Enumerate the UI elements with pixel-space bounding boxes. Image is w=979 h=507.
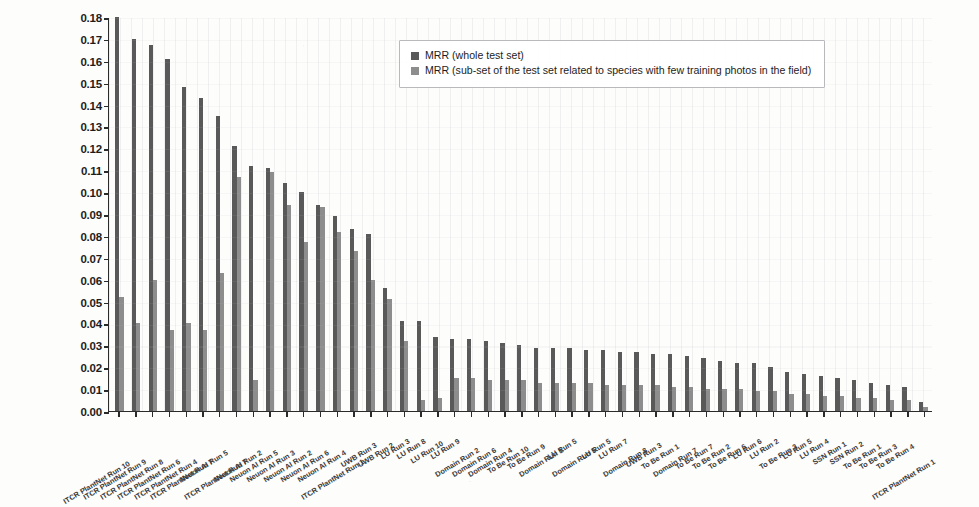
bar-group[interactable] (379, 18, 396, 411)
x-axis-tick-mark (706, 412, 707, 417)
bar[interactable] (337, 232, 341, 411)
bar[interactable] (249, 166, 253, 411)
bar[interactable] (907, 400, 911, 411)
x-label-slot: ITCR PlantNet Run 1 (916, 418, 933, 504)
bar[interactable] (237, 177, 241, 411)
bar-group[interactable] (848, 18, 865, 411)
bar[interactable] (253, 380, 257, 411)
legend-swatch-icon (411, 52, 419, 60)
bar[interactable] (270, 172, 274, 411)
bar[interactable] (538, 383, 542, 411)
bar[interactable] (421, 400, 425, 411)
bar[interactable] (387, 299, 391, 411)
legend-item[interactable]: MRR (sub-set of the test set related to … (411, 63, 811, 78)
bar[interactable] (220, 273, 224, 411)
bar[interactable] (438, 398, 442, 411)
bar-group[interactable] (228, 18, 245, 411)
bar[interactable] (186, 323, 190, 411)
bar[interactable] (840, 396, 844, 411)
bar[interactable] (572, 383, 576, 411)
bar[interactable] (722, 389, 726, 411)
bar-group[interactable] (346, 18, 363, 411)
bar[interactable] (354, 251, 358, 411)
y-axis-tick-label: 0.02 (80, 362, 109, 374)
bar[interactable] (622, 385, 626, 411)
bar[interactable] (153, 280, 157, 411)
x-label-slot: Domain Run 5 (580, 418, 597, 504)
x-axis-tick-mark (907, 412, 908, 417)
bar[interactable] (488, 380, 492, 411)
x-axis-tick-mark (420, 412, 421, 417)
bar[interactable] (404, 341, 408, 411)
bar-group[interactable] (295, 18, 312, 411)
bar-group[interactable] (865, 18, 882, 411)
bar[interactable] (873, 398, 877, 411)
bar-group[interactable] (178, 18, 195, 411)
bar-group[interactable] (882, 18, 899, 411)
x-axis-tick-mark (437, 412, 438, 417)
x-label-slot: LU Run 5 (597, 418, 614, 504)
bar[interactable] (655, 385, 659, 411)
bar[interactable] (605, 385, 609, 411)
bar[interactable] (789, 394, 793, 412)
bar[interactable] (639, 385, 643, 411)
bar[interactable] (923, 407, 927, 411)
bar-group[interactable] (312, 18, 329, 411)
bar[interactable] (203, 330, 207, 411)
bar[interactable] (588, 383, 592, 411)
bar-group[interactable] (831, 18, 848, 411)
y-axis-tick-label: 0.01 (80, 384, 109, 396)
bar-group[interactable] (111, 18, 128, 411)
x-axis-tick-mark (219, 412, 220, 417)
bar[interactable] (136, 323, 140, 411)
bar[interactable] (856, 398, 860, 411)
bar[interactable] (320, 207, 324, 411)
bar-group[interactable] (128, 18, 145, 411)
bar[interactable] (773, 391, 777, 411)
bar[interactable] (471, 378, 475, 411)
bar[interactable] (304, 242, 308, 411)
bar-group[interactable] (362, 18, 379, 411)
x-axis-tick-mark (320, 412, 321, 417)
bar[interactable] (806, 394, 810, 412)
bar-group[interactable] (915, 18, 932, 411)
x-axis-tick-mark (353, 412, 354, 417)
bar[interactable] (890, 400, 894, 411)
bar[interactable] (823, 396, 827, 411)
bar-group[interactable] (245, 18, 262, 411)
bar[interactable] (371, 280, 375, 411)
x-axis-tick-mark (756, 412, 757, 417)
x-axis-tick-mark (723, 412, 724, 417)
bar[interactable] (119, 297, 123, 411)
bar-group[interactable] (145, 18, 162, 411)
bar[interactable] (555, 383, 559, 411)
bar-group[interactable] (212, 18, 229, 411)
legend-item[interactable]: MRR (whole test set) (411, 48, 811, 63)
mrr-bar-chart: 0.180.170.160.150.140.130.120.110.100.09… (0, 0, 979, 507)
y-axis-tick-label: 0.04 (80, 318, 109, 330)
bar-group[interactable] (279, 18, 296, 411)
bar[interactable] (521, 380, 525, 411)
bar-group[interactable] (161, 18, 178, 411)
bar[interactable] (287, 205, 291, 411)
bar[interactable] (689, 387, 693, 411)
bar-group[interactable] (898, 18, 915, 411)
x-label-slot: LU Run 10 (429, 418, 446, 504)
bar-group[interactable] (329, 18, 346, 411)
y-axis-tick-label: 0.08 (80, 231, 109, 243)
bar[interactable] (454, 378, 458, 411)
x-axis-tick-mark (152, 412, 153, 417)
x-axis-tick-mark (672, 412, 673, 417)
bar[interactable] (739, 389, 743, 411)
bar[interactable] (417, 321, 421, 411)
bar[interactable] (756, 391, 760, 411)
x-axis-tick-mark (773, 412, 774, 417)
bar-group[interactable] (195, 18, 212, 411)
y-axis-tick-label: 0.18 (80, 12, 109, 24)
bar-group[interactable] (262, 18, 279, 411)
bar[interactable] (672, 387, 676, 411)
x-axis-tick-mark (471, 412, 472, 417)
bar[interactable] (706, 389, 710, 411)
bar[interactable] (170, 330, 174, 411)
bar[interactable] (505, 380, 509, 411)
